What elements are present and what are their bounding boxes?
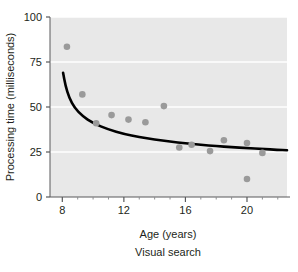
visual-search-scatter-chart: 0255075100 8121620 Processing time (mill…: [0, 0, 298, 272]
x-axis-title: Age (years): [140, 228, 197, 240]
y-tick-label: 0: [36, 191, 42, 203]
y-axis-title: Processing time (milliseconds): [4, 33, 16, 182]
data-point: [64, 43, 71, 50]
data-point: [79, 91, 86, 98]
data-point: [244, 140, 251, 147]
y-tick-label: 75: [30, 56, 42, 68]
x-axis-ticks: 8121620: [59, 197, 253, 216]
data-point: [188, 142, 195, 149]
data-point: [108, 112, 115, 119]
y-tick-label: 100: [24, 11, 42, 23]
data-point: [259, 150, 266, 157]
x-tick-label: 12: [118, 204, 130, 216]
data-point: [244, 176, 251, 183]
data-point: [125, 116, 132, 123]
chart-caption: Visual search: [135, 246, 201, 258]
y-axis-ticks: 0255075100: [24, 11, 50, 203]
y-tick-label: 25: [30, 146, 42, 158]
data-point: [93, 120, 100, 127]
data-point: [176, 144, 183, 151]
x-tick-label: 16: [179, 204, 191, 216]
data-point: [221, 137, 228, 144]
data-point: [161, 103, 168, 110]
data-point: [207, 148, 214, 155]
x-tick-label: 8: [59, 204, 65, 216]
data-point: [142, 119, 149, 126]
y-tick-label: 50: [30, 101, 42, 113]
x-tick-label: 20: [241, 204, 253, 216]
